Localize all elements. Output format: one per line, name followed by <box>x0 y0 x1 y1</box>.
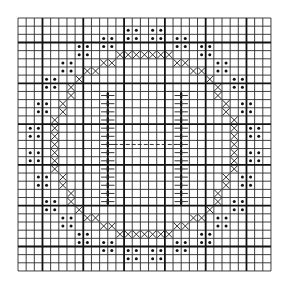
dot-stitch-icon <box>127 257 130 260</box>
dot-stitch-icon <box>225 225 228 228</box>
dot-stitch-icon <box>110 37 113 40</box>
dot-stitch-icon <box>29 135 32 138</box>
dot-stitch-icon <box>233 78 236 81</box>
dot-stitch-icon <box>37 151 40 154</box>
dot-stitch-icon <box>241 102 244 105</box>
dot-stitch-icon <box>208 233 211 236</box>
dot-stitch-icon <box>70 61 73 64</box>
dot-stitch-icon <box>86 241 89 244</box>
dot-stitch-icon <box>200 241 203 244</box>
dot-stitch-icon <box>45 184 48 187</box>
dot-stitch-icon <box>53 86 56 89</box>
dot-stitch-icon <box>184 37 187 40</box>
dot-stitch-icon <box>127 249 130 252</box>
dot-stitch-icon <box>37 159 40 162</box>
dot-stitch-icon <box>45 102 48 105</box>
dot-stitch-icon <box>45 78 48 81</box>
dot-stitch-icon <box>208 53 211 56</box>
dot-stitch-icon <box>102 45 105 48</box>
dot-stitch-icon <box>53 200 56 203</box>
dot-stitch-icon <box>225 61 228 64</box>
dot-stitch-icon <box>135 249 138 252</box>
dot-stitch-icon <box>110 241 113 244</box>
dot-stitch-icon <box>257 151 260 154</box>
dot-stitch-icon <box>151 37 154 40</box>
dot-stitch-icon <box>184 45 187 48</box>
dot-stitch-icon <box>61 70 64 73</box>
dot-stitch-icon <box>233 200 236 203</box>
dot-stitch-icon <box>241 110 244 113</box>
dot-stitch-icon <box>86 233 89 236</box>
dot-stitch-icon <box>61 225 64 228</box>
dot-stitch-icon <box>127 37 130 40</box>
dot-stitch-icon <box>151 29 154 32</box>
dot-stitch-icon <box>225 216 228 219</box>
dot-stitch-icon <box>241 86 244 89</box>
dot-stitch-icon <box>176 241 179 244</box>
dot-stitch-icon <box>127 29 130 32</box>
dot-stitch-icon <box>61 216 64 219</box>
dot-stitch-icon <box>86 53 89 56</box>
dot-stitch-icon <box>241 200 244 203</box>
dot-stitch-icon <box>208 45 211 48</box>
dot-stitch-icon <box>53 208 56 211</box>
dot-stitch-icon <box>45 200 48 203</box>
dot-stitch-icon <box>208 241 211 244</box>
dot-stitch-icon <box>135 257 138 260</box>
dot-stitch-icon <box>249 176 252 179</box>
dot-stitch-icon <box>249 135 252 138</box>
dot-stitch-icon <box>61 61 64 64</box>
dot-stitch-icon <box>102 241 105 244</box>
dot-stitch-icon <box>216 61 219 64</box>
dot-stitch-icon <box>225 70 228 73</box>
dot-stitch-icon <box>233 208 236 211</box>
dot-stitch-icon <box>200 53 203 56</box>
dot-stitch-icon <box>70 225 73 228</box>
stitch-chart <box>0 0 288 292</box>
dot-stitch-icon <box>102 249 105 252</box>
dot-stitch-icon <box>241 78 244 81</box>
dot-stitch-icon <box>257 159 260 162</box>
dot-stitch-icon <box>110 249 113 252</box>
dot-stitch-icon <box>249 110 252 113</box>
dot-stitch-icon <box>159 257 162 260</box>
dot-stitch-icon <box>37 102 40 105</box>
dot-stitch-icon <box>176 249 179 252</box>
dot-stitch-icon <box>135 29 138 32</box>
dot-stitch-icon <box>184 249 187 252</box>
dot-stitch-icon <box>241 184 244 187</box>
dot-stitch-icon <box>233 86 236 89</box>
dot-stitch-icon <box>159 249 162 252</box>
dot-stitch-icon <box>78 45 81 48</box>
dot-stitch-icon <box>176 45 179 48</box>
dot-stitch-icon <box>216 216 219 219</box>
dot-stitch-icon <box>176 37 179 40</box>
dot-stitch-icon <box>249 159 252 162</box>
dot-stitch-icon <box>216 225 219 228</box>
dot-stitch-icon <box>45 176 48 179</box>
dot-stitch-icon <box>249 151 252 154</box>
dot-stitch-icon <box>110 45 113 48</box>
dot-stitch-icon <box>53 78 56 81</box>
dot-stitch-icon <box>151 257 154 260</box>
dot-stitch-icon <box>37 110 40 113</box>
dot-stitch-icon <box>241 176 244 179</box>
dot-stitch-icon <box>184 241 187 244</box>
dot-stitch-icon <box>29 127 32 130</box>
dot-stitch-icon <box>257 135 260 138</box>
dot-stitch-icon <box>70 70 73 73</box>
dot-stitch-icon <box>37 176 40 179</box>
dot-stitch-icon <box>216 70 219 73</box>
dot-stitch-icon <box>249 102 252 105</box>
dot-stitch-icon <box>29 159 32 162</box>
dot-stitch-icon <box>86 45 89 48</box>
dot-stitch-icon <box>70 216 73 219</box>
dot-stitch-icon <box>37 184 40 187</box>
dot-stitch-icon <box>37 135 40 138</box>
dot-stitch-icon <box>78 233 81 236</box>
dot-stitch-icon <box>200 233 203 236</box>
dot-stitch-icon <box>241 208 244 211</box>
dot-stitch-icon <box>29 151 32 154</box>
dot-stitch-icon <box>102 37 105 40</box>
dot-stitch-icon <box>45 86 48 89</box>
